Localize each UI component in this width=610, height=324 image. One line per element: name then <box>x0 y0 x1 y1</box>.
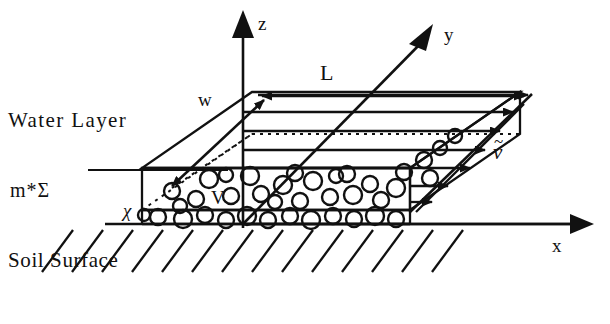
y-axis-label: y <box>444 25 454 44</box>
soil-surface-group <box>42 224 582 272</box>
schematic-diagram-figure: Water Layer Soil Surface m*Σ z y x L w V… <box>0 0 610 324</box>
width-label: w <box>198 90 212 109</box>
z-axis-label: z <box>258 14 266 33</box>
length-label: L <box>320 62 333 84</box>
arrow-diagonal-icon <box>409 24 433 51</box>
arrow-right-icon <box>570 214 594 234</box>
soil-surface-label: Soil Surface <box>8 250 118 271</box>
velocity-label: ~ v <box>493 142 502 163</box>
x-axis-label: x <box>552 236 562 255</box>
chi-label: χ <box>123 201 131 220</box>
box-hidden-edge <box>142 134 252 210</box>
mass-flux-label: m*Σ <box>10 180 50 200</box>
box-hidden-top-edge <box>172 134 252 188</box>
water-layer-label: Water Layer <box>8 110 127 131</box>
width-dimension <box>172 100 264 186</box>
volume-label: V <box>211 188 225 207</box>
arrow-up-icon <box>232 10 254 38</box>
tilde-accent-icon: ~ <box>494 133 503 150</box>
diagram-canvas <box>0 0 610 324</box>
axes-group <box>232 10 594 234</box>
